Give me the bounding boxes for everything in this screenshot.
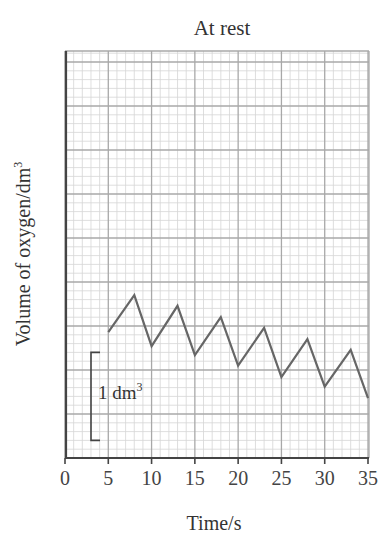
x-axis-label: Time/s (187, 512, 242, 534)
x-tick-label: 0 (60, 467, 70, 489)
x-tick-label: 25 (271, 467, 291, 489)
y-axis-label: Volume of oxygen/dm3 (11, 162, 35, 347)
x-tick-label: 5 (103, 467, 113, 489)
x-tick-label: 10 (142, 467, 162, 489)
scale-bar-label: 1 dm3 (98, 380, 143, 403)
x-tick-label: 35 (358, 467, 378, 489)
x-tick-label: 15 (185, 467, 205, 489)
x-axis-ticks: 05101520253035 (60, 458, 378, 489)
x-tick-label: 20 (228, 467, 248, 489)
chart: At rest 05101520253035 1 dm3 Time/s Volu… (0, 0, 388, 558)
x-tick-label: 30 (315, 467, 335, 489)
chart-title: At rest (194, 16, 251, 40)
